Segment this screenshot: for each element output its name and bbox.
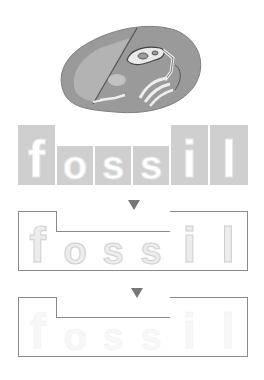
letter-box-f: f <box>18 125 55 185</box>
letter-box-s: s <box>132 317 171 357</box>
letter-box-f: f <box>18 211 57 271</box>
letter-box-f: f <box>18 297 57 357</box>
letter: l <box>221 306 235 356</box>
letter-row-filled: f o s s i l <box>18 125 248 185</box>
letter: l <box>222 133 236 185</box>
letter-box-l: l <box>209 297 248 357</box>
letter: i <box>182 133 196 185</box>
letter: o <box>63 146 87 185</box>
letter: s <box>140 232 161 270</box>
letter-box-o: o <box>56 231 95 271</box>
letter-box-i: i <box>170 211 210 271</box>
letter: s <box>102 318 123 356</box>
letter-box-s: s <box>132 231 171 271</box>
fossil-rock-image <box>55 20 205 115</box>
letter: o <box>63 318 86 356</box>
letter-box-i: i <box>171 125 208 185</box>
letter-box-s: s <box>94 231 133 271</box>
letter: f <box>28 133 45 185</box>
letter-row-outlined: f o s s i l <box>18 211 248 271</box>
letter: l <box>221 220 235 270</box>
letter: s <box>140 146 162 185</box>
letter-box-s: s <box>94 317 133 357</box>
letter: s <box>102 232 123 270</box>
letter-row-faint: f o s s i l <box>18 297 248 357</box>
letter: s <box>140 318 161 356</box>
letter: s <box>102 146 124 185</box>
letter-box-s: s <box>133 146 169 185</box>
letter-box-o: o <box>57 146 93 185</box>
letter: i <box>183 220 197 270</box>
letter-box-o: o <box>56 317 95 357</box>
letter: f <box>29 220 46 270</box>
letter-box-i: i <box>170 297 210 357</box>
letter-box-l: l <box>209 211 248 271</box>
letter: o <box>63 232 86 270</box>
down-arrow-icon <box>128 200 140 210</box>
letter: i <box>183 306 197 356</box>
letter-box-s: s <box>95 146 131 185</box>
letter: f <box>29 306 46 356</box>
letter-box-l: l <box>210 125 248 185</box>
